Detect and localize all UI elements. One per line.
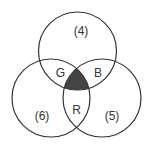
label-left-only: (6) <box>35 109 50 123</box>
label-top-only: (4) <box>74 24 89 38</box>
label-top-right-B: B <box>94 66 102 80</box>
label-right-only: (5) <box>105 109 120 123</box>
left-circle <box>12 59 90 137</box>
label-top-left-G: G <box>56 66 65 80</box>
label-left-right-R: R <box>72 103 81 117</box>
venn-diagram: (4) G B (6) R (5) <box>0 0 151 149</box>
